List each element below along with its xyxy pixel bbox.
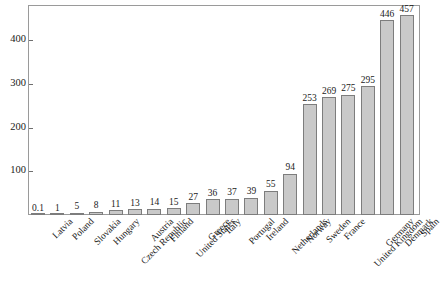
bar-item[interactable]: 457 bbox=[400, 15, 414, 215]
bar-rect bbox=[186, 203, 200, 215]
y-axis-tick-label: 400 bbox=[0, 34, 26, 45]
y-axis-tick-label: 200 bbox=[0, 122, 26, 133]
bar-item[interactable]: 5 bbox=[70, 213, 84, 215]
y-axis-tick-label: 100 bbox=[0, 165, 26, 176]
bar-rect bbox=[283, 174, 297, 215]
bar-item[interactable]: 0.1 bbox=[31, 214, 45, 215]
bar-rect bbox=[89, 212, 103, 215]
bar-value-label: 5 bbox=[74, 202, 79, 212]
bar-rect bbox=[341, 95, 355, 215]
bar-value-label: 55 bbox=[266, 180, 276, 190]
bar-rect bbox=[400, 15, 414, 215]
bar-value-label: 94 bbox=[285, 163, 295, 173]
bars-container: 0.11581113141527363739559425326927529544… bbox=[29, 6, 419, 215]
x-axis-labels: LatviaPolandSlovakiaHungaryCzech Republi… bbox=[29, 217, 419, 288]
bar-item[interactable]: 15 bbox=[167, 208, 181, 215]
bar-item[interactable]: 1 bbox=[50, 214, 64, 215]
bar-item[interactable]: 14 bbox=[147, 209, 161, 215]
bar-value-label: 457 bbox=[399, 5, 413, 15]
bar-rect bbox=[109, 210, 123, 215]
bar-value-label: 446 bbox=[380, 10, 394, 20]
bar-rect bbox=[244, 198, 258, 215]
bar-value-label: 36 bbox=[208, 189, 218, 199]
bar-item[interactable]: 275 bbox=[341, 95, 355, 215]
bar-item[interactable]: 27 bbox=[186, 203, 200, 215]
bar-item[interactable]: 36 bbox=[206, 199, 220, 215]
bar-rect bbox=[128, 209, 142, 215]
bar-value-label: 8 bbox=[94, 201, 99, 211]
bar-rect bbox=[167, 208, 181, 215]
bar-value-label: 27 bbox=[188, 193, 198, 203]
bar-item[interactable]: 8 bbox=[89, 212, 103, 215]
bar-value-label: 0.1 bbox=[32, 204, 44, 214]
bar-value-label: 14 bbox=[150, 198, 160, 208]
y-axis-tick-label: 300 bbox=[0, 78, 26, 89]
bar-value-label: 275 bbox=[341, 84, 355, 94]
bar-rect bbox=[147, 209, 161, 215]
bar-item[interactable]: 94 bbox=[283, 174, 297, 215]
bar-rect bbox=[31, 213, 45, 215]
bar-item[interactable]: 446 bbox=[380, 20, 394, 215]
bar-rect bbox=[70, 213, 84, 215]
bar-value-label: 11 bbox=[111, 200, 120, 210]
bar-rect bbox=[50, 213, 64, 215]
bar-value-label: 253 bbox=[302, 94, 316, 104]
bar-rect bbox=[322, 97, 336, 215]
bar-rect bbox=[380, 20, 394, 215]
bar-value-label: 13 bbox=[130, 199, 140, 209]
bar-item[interactable]: 13 bbox=[128, 209, 142, 215]
bar-item[interactable]: 55 bbox=[264, 191, 278, 215]
bar-item[interactable]: 11 bbox=[109, 210, 123, 215]
bar-rect bbox=[361, 86, 375, 215]
bar-rect bbox=[206, 199, 220, 215]
bar-value-label: 37 bbox=[227, 188, 237, 198]
bar-item[interactable]: 295 bbox=[361, 86, 375, 215]
bar-rect bbox=[264, 191, 278, 215]
bar-rect bbox=[303, 104, 317, 215]
bar-value-label: 15 bbox=[169, 198, 179, 208]
bar-value-label: 269 bbox=[322, 87, 336, 97]
bar-value-label: 39 bbox=[247, 187, 257, 197]
bar-item[interactable]: 37 bbox=[225, 199, 239, 215]
bar-rect bbox=[225, 199, 239, 215]
bar-value-label: 295 bbox=[361, 76, 375, 86]
bar-item[interactable]: 253 bbox=[303, 104, 317, 215]
bar-item[interactable]: 269 bbox=[322, 97, 336, 215]
bar-value-label: 1 bbox=[55, 204, 60, 214]
bar-item[interactable]: 39 bbox=[244, 198, 258, 215]
